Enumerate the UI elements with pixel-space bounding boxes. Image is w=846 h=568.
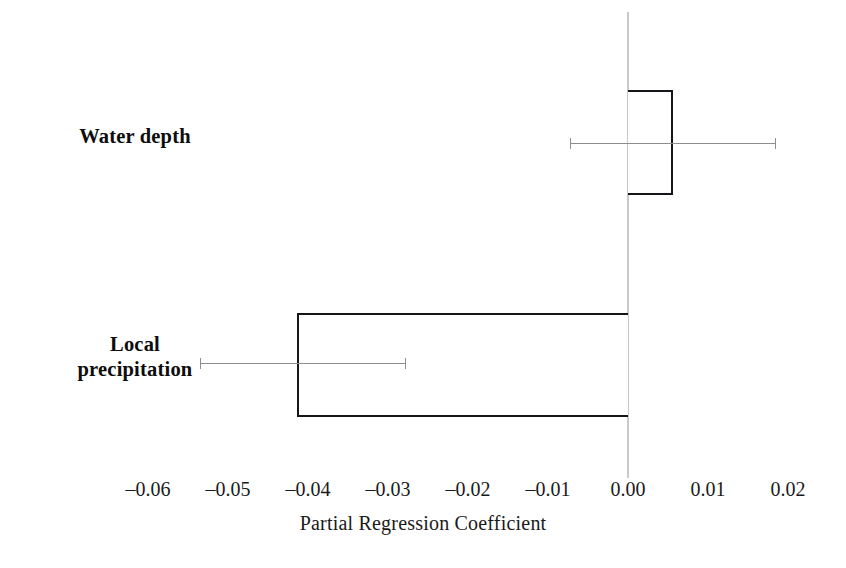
plot-area: Water depth Local precipitation bbox=[0, 0, 846, 478]
error-bar-cap-high-water-depth bbox=[775, 138, 776, 149]
category-label-water-depth: Water depth bbox=[0, 124, 270, 149]
partial-regression-coefficient-chart: Water depth Local precipitation –0.06–0.… bbox=[0, 0, 846, 568]
error-bar-water-depth bbox=[570, 143, 775, 144]
category-label-local-precipitation: Local precipitation bbox=[0, 332, 270, 382]
x-tick-label: 0.02 bbox=[733, 478, 843, 501]
x-axis-title: Partial Regression Coefficient bbox=[0, 512, 846, 535]
error-bar-cap-low-water-depth bbox=[570, 138, 571, 149]
bar-local-precipitation[interactable] bbox=[297, 313, 628, 417]
error-bar-cap-high-local-precipitation bbox=[405, 358, 406, 369]
